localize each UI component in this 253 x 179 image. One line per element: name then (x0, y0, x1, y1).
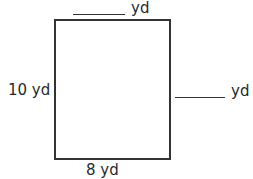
right-answer-blank[interactable] (175, 97, 225, 98)
top-answer-blank[interactable] (73, 14, 125, 15)
top-unit-label: yd (131, 0, 149, 16)
bottom-side-label: 8 yd (86, 162, 119, 178)
rectangle-shape (54, 19, 171, 160)
left-side-label: 10 yd (8, 82, 50, 98)
right-unit-label: yd (231, 83, 249, 99)
